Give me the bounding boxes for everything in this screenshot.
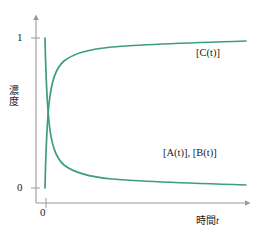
x-axis-title: 時間t — [196, 212, 219, 227]
series-line-ab — [45, 38, 246, 185]
y-axis-tick-label-1: 1 — [17, 32, 23, 43]
x-axis-tick-label-0: 0 — [40, 207, 46, 218]
x-axis-title-variable: t — [216, 215, 219, 226]
series-label-ab: [A(t)], [B(t)] — [163, 148, 217, 159]
x-axis-title-text: 時間 — [196, 215, 216, 226]
series-line-c — [45, 41, 246, 188]
series-label-c: [C(t)] — [196, 48, 220, 59]
y-axis-tick-label-0: 0 — [17, 182, 23, 193]
chart-canvas — [0, 0, 263, 233]
y-axis-title: 濃度 — [2, 85, 20, 107]
concentration-vs-time-chart: 1 0 0 濃度 時間t [C(t)] [A(t)], [B(t)] — [0, 0, 263, 233]
